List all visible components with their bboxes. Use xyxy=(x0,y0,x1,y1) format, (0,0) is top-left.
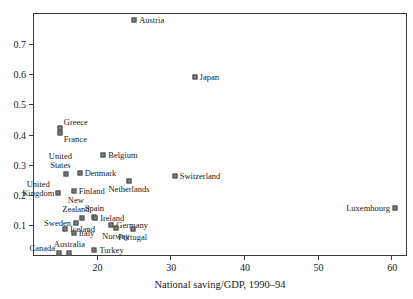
data-point-label: NewZealand xyxy=(62,196,89,214)
x-axis-tick-label: 50 xyxy=(314,261,324,274)
data-point-marker[interactable] xyxy=(71,231,76,236)
scatter-plot-figure: AustriaJapanGreeceFranceBelgiumUnitedSta… xyxy=(0,0,413,299)
data-point-marker[interactable] xyxy=(392,205,397,210)
plot-frame: AustriaJapanGreeceFranceBelgiumUnitedSta… xyxy=(33,13,407,256)
y-axis-tick: 0.7 xyxy=(29,44,34,45)
data-point-label: Portugal xyxy=(118,233,147,242)
data-point-marker[interactable] xyxy=(62,227,67,232)
data-point-marker[interactable] xyxy=(92,248,97,253)
y-axis-tick-label: 0.5 xyxy=(14,98,27,111)
data-point-marker[interactable] xyxy=(130,227,135,232)
data-point-marker[interactable] xyxy=(64,172,69,177)
data-point-label: UnitedStates xyxy=(49,152,72,170)
x-axis-tick-label: 60 xyxy=(387,261,397,274)
data-point-label: Japan xyxy=(200,73,219,82)
y-axis-tick-label: 0.4 xyxy=(14,129,27,142)
data-point-label: Denmark xyxy=(85,169,117,178)
data-point-marker[interactable] xyxy=(77,171,82,176)
data-point-label: Luxembourg xyxy=(346,203,390,212)
data-point-marker[interactable] xyxy=(57,130,62,135)
y-axis-tick: 0.1 xyxy=(29,225,34,226)
data-point-marker[interactable] xyxy=(56,190,61,195)
y-axis-tick-label: 0.7 xyxy=(14,38,27,51)
x-axis-tick: 50 xyxy=(318,255,319,260)
x-axis-title: National saving/GDP, 1990–94 xyxy=(33,278,407,291)
data-point-label: France xyxy=(64,134,87,143)
data-point-label: Austria xyxy=(139,16,164,25)
y-axis-tick: 0.2 xyxy=(29,195,34,196)
y-axis-tick-label: 0.3 xyxy=(14,159,27,172)
data-point-marker[interactable] xyxy=(101,152,106,157)
y-axis-tick: 0.5 xyxy=(29,104,34,105)
x-axis-tick: 40 xyxy=(244,255,245,260)
data-point-label: UnitedKingdom xyxy=(22,180,54,198)
data-point-marker[interactable] xyxy=(57,250,62,255)
y-axis-tick: 0.6 xyxy=(29,74,34,75)
data-point-marker[interactable] xyxy=(79,216,84,221)
y-axis-tick-label: 0.1 xyxy=(14,219,27,232)
x-axis-tick: 60 xyxy=(391,255,392,260)
data-point-label: Netherlands xyxy=(108,185,149,194)
x-axis-tick-label: 40 xyxy=(240,261,250,274)
data-point-marker[interactable] xyxy=(93,216,98,221)
y-axis-tick-label: 0.2 xyxy=(14,189,27,202)
x-axis-tick: 20 xyxy=(97,255,98,260)
data-point-marker[interactable] xyxy=(71,189,76,194)
x-axis-tick: 30 xyxy=(170,255,171,260)
data-point-label: Italy xyxy=(79,229,95,238)
data-point-label: Turkey xyxy=(99,246,123,255)
data-point-label: Australia xyxy=(54,240,85,249)
data-point-marker[interactable] xyxy=(172,173,177,178)
x-axis-tick-label: 30 xyxy=(166,261,176,274)
data-point-marker[interactable] xyxy=(67,250,72,255)
data-point-label: Canada xyxy=(30,243,56,252)
y-axis-tick: 0.4 xyxy=(29,135,34,136)
data-point-marker[interactable] xyxy=(192,75,197,80)
y-axis-tick-label: 0.6 xyxy=(14,68,27,81)
data-point-label: Belgium xyxy=(108,150,137,159)
data-point-label: Switzerland xyxy=(180,171,221,180)
x-axis-tick-label: 20 xyxy=(93,261,103,274)
data-point-marker[interactable] xyxy=(113,226,118,231)
data-point-marker[interactable] xyxy=(127,178,132,183)
y-axis-tick: 0.3 xyxy=(29,165,34,166)
data-point-label: Greece xyxy=(64,117,88,126)
data-point-marker[interactable] xyxy=(132,18,137,23)
plot-area: AustriaJapanGreeceFranceBelgiumUnitedSta… xyxy=(34,14,406,255)
